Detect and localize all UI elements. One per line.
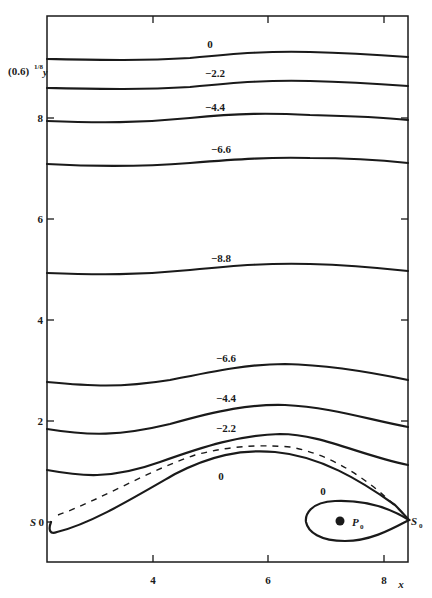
svg-text:(0.6): (0.6) (8, 65, 29, 78)
x-tick-8: 8 (381, 574, 387, 586)
label-point-p0: P 0 (352, 516, 364, 531)
x-tick-4: 4 (150, 574, 156, 586)
label-contour-neg8.8: −8.8 (211, 252, 232, 264)
contour-neg6.6-top (47, 158, 408, 166)
svg-text:0: 0 (419, 522, 423, 530)
contour-neg4.4-top (47, 114, 408, 122)
y-tick-0: 0 (39, 516, 45, 528)
svg-text:y: y (42, 67, 48, 78)
label-contour-neg4.4-bottom: −4.4 (216, 392, 237, 404)
y-axis-ticks (47, 118, 54, 522)
contour-neg6.6-bottom (47, 364, 408, 386)
y-tick-6: 6 (38, 213, 44, 225)
label-contour-0-bottom: 0 (218, 470, 224, 482)
plot-frame (47, 16, 408, 562)
contour-neg8.8 (47, 264, 408, 274)
label-contour-neg2.2-top: −2.2 (205, 67, 226, 79)
label-contour-neg4.4-top: −4.4 (205, 101, 226, 113)
y-tick-4: 4 (38, 314, 44, 326)
x-axis-ticks (153, 555, 384, 562)
label-point-s0: S 0 (411, 515, 423, 530)
point-p0-marker (336, 517, 345, 526)
top-ticks (153, 16, 384, 23)
y-tick-2: 2 (38, 415, 44, 427)
label-contour-0-top: 0 (207, 38, 213, 50)
x-axis-label: x (397, 578, 404, 590)
contour-figure: 4 6 8 x 8 6 4 2 0 (0.6) 1/8 y 0 −2.2 −4.… (0, 0, 432, 598)
y-tick-8: 8 (38, 112, 44, 124)
svg-text:0: 0 (360, 523, 364, 531)
contour-0-top (47, 52, 408, 60)
label-point-s: S (30, 516, 36, 528)
y-axis-label: (0.6) 1/8 y (8, 63, 48, 78)
label-contour-neg6.6-bottom: −6.6 (216, 352, 237, 364)
contour-neg2.2-top (47, 81, 408, 89)
label-contour-neg2.2-bottom: −2.2 (216, 422, 237, 434)
contour-dashed (58, 446, 409, 520)
svg-text:S: S (411, 515, 417, 527)
x-tick-6: 6 (265, 574, 271, 586)
label-contour-neg6.6-top: −6.6 (211, 143, 232, 155)
svg-text:P: P (352, 516, 359, 528)
label-contour-0-loop: 0 (320, 485, 326, 497)
